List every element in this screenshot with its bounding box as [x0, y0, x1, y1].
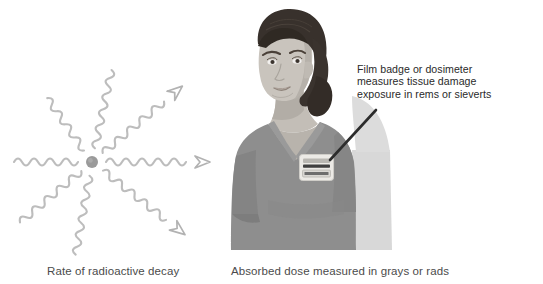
annotation-line-1: Film badge or dosimeter [357, 63, 543, 75]
decay-arrow-southeast [169, 221, 188, 240]
decay-ray-south [72, 175, 93, 255]
caption-absorbed-dose: Absorbed dose measured in grays or rads [231, 264, 449, 278]
radioactive-decay-diagram [0, 0, 543, 284]
decay-ray-southwest [18, 168, 84, 225]
decay-arrow-northeast [167, 82, 186, 101]
nucleus-highlight [88, 158, 93, 163]
decay-rays-group [14, 69, 210, 255]
decay-ray-northwest [44, 96, 86, 152]
annotation-line-3: exposure in rems or sieverts [357, 88, 543, 100]
decay-ray-east [106, 159, 186, 166]
decay-ray-northeast [100, 99, 166, 156]
decay-arrow-east [195, 156, 210, 168]
annotation-line-2: measures tissue damage [357, 75, 543, 87]
decay-ray-north [91, 69, 114, 149]
decay-ray-southeast [101, 168, 168, 223]
radiation-measurement-figure: Film badge or dosimeter measures tissue … [0, 0, 543, 284]
annotation-text-block: Film badge or dosimeter measures tissue … [357, 63, 543, 100]
decay-ray-west [14, 159, 78, 166]
caption-rate-of-radioactive-decay: Rate of radioactive decay [47, 264, 179, 278]
